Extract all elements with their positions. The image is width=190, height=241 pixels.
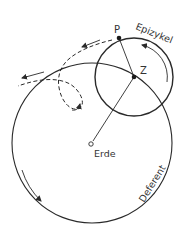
epicycle-diagram: P Z Erde Epizykel Deferent (0, 0, 190, 241)
epicycle-label: Epizykel (134, 21, 174, 46)
deferent-label: Deferent (136, 163, 168, 204)
earth-point (89, 142, 93, 146)
epicycle-center-point (132, 75, 137, 80)
point-p-label: P (114, 24, 120, 35)
center-z-label: Z (140, 65, 147, 76)
path-arrow-left (22, 72, 44, 78)
earth-label: Erde (94, 148, 116, 159)
planet-path-dashed (18, 40, 112, 109)
earth-to-center-line (93, 77, 134, 141)
planet-point (117, 36, 122, 41)
